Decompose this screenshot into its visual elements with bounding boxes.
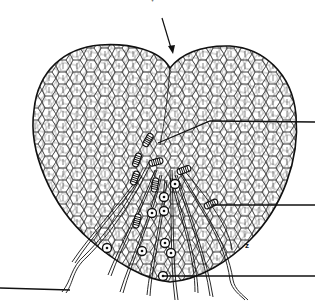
archegonium xyxy=(160,207,169,216)
archegonium xyxy=(161,239,170,248)
small-mark: z xyxy=(245,241,249,250)
archegonium xyxy=(138,247,147,256)
archegonium xyxy=(167,249,176,258)
thallus-body xyxy=(0,0,325,304)
archegonium xyxy=(103,244,112,253)
pointer-arrow xyxy=(162,18,175,54)
archegonium xyxy=(171,180,180,189)
archegonium xyxy=(160,193,169,202)
leader-bottom-left xyxy=(0,288,70,290)
archegonium xyxy=(148,209,157,218)
thallus-diagram xyxy=(0,0,325,304)
